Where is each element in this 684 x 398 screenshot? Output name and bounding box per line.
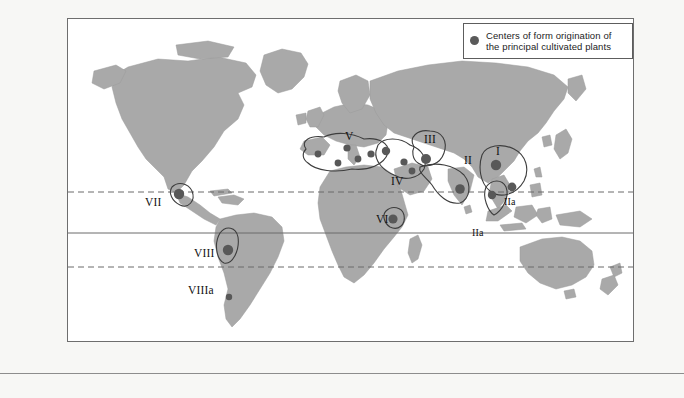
center-dot-VIIIa [226,294,232,300]
legend-line-2: the principal cultivated plants [486,41,612,53]
map-figure-frame: V III II I IV VI IIa IIa VII VIII VIIIa … [67,18,634,342]
center-dot-I-1 [491,160,501,170]
region-label-VI: VI [376,213,389,225]
center-dot-II [455,184,465,194]
world-map-svg [68,19,633,341]
land-tasmania [564,289,576,299]
region-label-I: I [496,145,500,157]
center-dot-V-5 [367,150,374,157]
bottom-horizontal-rule [0,373,684,374]
center-dot-VI [388,214,397,223]
region-label-VIIIa: VIIIa [188,284,214,296]
map-legend: Centers of form origination of the princ… [463,23,633,59]
center-dot-IIa [488,191,496,199]
center-dot-III [421,154,431,164]
region-label-VIII: VIII [194,247,215,259]
region-label-III: III [424,133,436,145]
land-philippines [530,183,542,197]
center-dot-I-2 [508,183,517,192]
region-label-V: V [345,130,354,142]
legend-line-1: Centers of form origination of [486,30,612,42]
region-label-IIa-2: IIa [472,227,484,238]
center-dot-V-1 [315,151,322,158]
page-root: V III II I IV VI IIa IIa VII VIII VIIIa … [0,0,684,398]
center-dot-IV-2 [400,158,407,165]
center-dot-VII [174,189,184,199]
legend-text: Centers of form origination of the princ… [486,30,612,53]
center-dot-IV-3 [409,168,416,175]
center-dot-V-4 [335,160,342,167]
center-dot-V-2 [343,144,350,151]
center-dot-IV-1 [382,147,390,155]
region-label-IV: IV [391,175,404,187]
region-label-II: II [464,154,472,166]
land-ireland [296,113,306,125]
region-label-IIa-1: IIa [504,196,516,207]
land-korea [542,135,552,147]
region-label-VII: VII [145,196,162,208]
center-dot-VIII [223,245,233,255]
legend-marker-dot-icon [470,36,479,45]
center-dot-V-3 [355,156,362,163]
